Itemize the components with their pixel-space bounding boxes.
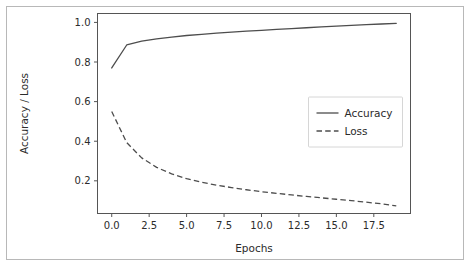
x-tick-label: 7.5	[216, 220, 232, 231]
x-axis-tick-labels: 0.02.55.07.510.012.515.017.5	[104, 220, 385, 231]
legend-label-loss: Loss	[345, 125, 368, 137]
chart-figure: 0.02.55.07.510.012.515.017.5 0.20.40.60.…	[0, 0, 472, 267]
x-tick-label: 17.5	[363, 220, 385, 231]
x-axis-title: Epochs	[235, 242, 273, 254]
y-tick-label: 0.2	[75, 175, 91, 186]
chart-legend: AccuracyLoss	[309, 97, 403, 147]
series-line-accuracy	[112, 23, 397, 68]
x-tick-label: 10.0	[250, 220, 272, 231]
x-axis-tick-marks	[112, 214, 374, 218]
legend-background	[309, 97, 403, 147]
y-tick-label: 0.4	[75, 136, 91, 147]
x-tick-label: 0.0	[104, 220, 120, 231]
y-tick-label: 0.6	[75, 96, 91, 107]
x-tick-label: 5.0	[179, 220, 195, 231]
line-chart-plot: 0.02.55.07.510.012.515.017.5 0.20.40.60.…	[0, 0, 472, 267]
y-tick-label: 0.8	[75, 57, 91, 68]
y-axis-tick-labels: 0.20.40.60.81.0	[75, 17, 91, 186]
legend-label-accuracy: Accuracy	[345, 107, 393, 119]
x-tick-label: 15.0	[325, 220, 347, 231]
x-tick-label: 2.5	[141, 220, 157, 231]
y-tick-label: 1.0	[75, 17, 91, 28]
y-axis-title: Accuracy / Loss	[18, 73, 30, 154]
y-axis-tick-marks	[94, 22, 98, 180]
x-tick-label: 12.5	[288, 220, 310, 231]
